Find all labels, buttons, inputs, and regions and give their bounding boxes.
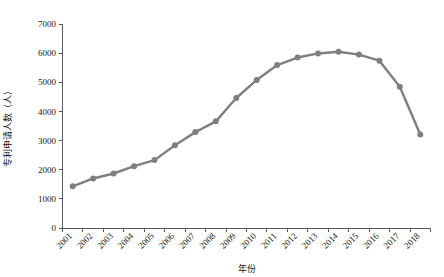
- data-point: [417, 131, 423, 137]
- data-point: [213, 118, 219, 124]
- data-point: [295, 55, 301, 61]
- y-tick-label: 7000: [38, 19, 57, 29]
- y-tick-label: 2000: [38, 165, 57, 175]
- data-point: [274, 62, 280, 68]
- data-point: [111, 171, 117, 177]
- data-point: [172, 142, 178, 148]
- y-tick-label: 4000: [38, 107, 57, 117]
- data-point: [254, 77, 260, 83]
- data-point: [152, 157, 158, 163]
- y-axis-title: 专利申请人数（人）: [2, 86, 13, 167]
- data-point: [336, 49, 342, 55]
- data-point: [131, 163, 137, 169]
- data-point: [233, 95, 239, 101]
- data-point: [70, 183, 76, 189]
- data-point: [376, 58, 382, 64]
- y-tick-label: 3000: [38, 136, 57, 146]
- y-tick-label: 6000: [38, 48, 57, 58]
- y-tick-label: 0: [52, 223, 57, 233]
- y-tick-label: 1000: [38, 194, 57, 204]
- data-point: [90, 175, 96, 181]
- y-tick-label: 5000: [38, 77, 57, 87]
- data-point: [356, 52, 362, 58]
- data-point: [192, 129, 198, 135]
- x-axis-title: 年份: [238, 263, 256, 274]
- chart-container: 01000200030004000500060007000 2001200220…: [0, 0, 444, 277]
- line-chart: 01000200030004000500060007000 2001200220…: [0, 0, 444, 277]
- data-point: [397, 84, 403, 90]
- data-point: [315, 50, 321, 56]
